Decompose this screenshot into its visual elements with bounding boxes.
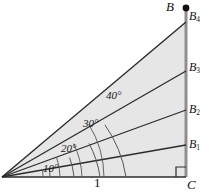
geometry-figure: B B4 B3 B2 B1 C 1 10° 20° 30° 40° [0, 0, 209, 193]
label-base-unit-length: 1 [94, 176, 101, 189]
label-point-B1: B1 [189, 138, 200, 151]
label-angle-40: 40° [106, 90, 121, 101]
label-point-B2-subscript: 2 [196, 108, 200, 117]
label-point-B4-subscript: 4 [196, 15, 200, 24]
label-point-B: B [166, 0, 174, 13]
label-point-B1-subscript: 1 [196, 143, 200, 152]
label-angle-10: 10° [43, 163, 58, 174]
label-point-B2: B2 [189, 103, 200, 116]
geometry-canvas [0, 0, 209, 193]
label-point-B3: B3 [189, 61, 200, 74]
label-point-B3-subscript: 3 [196, 66, 200, 75]
label-angle-20: 20° [61, 143, 76, 154]
label-point-C: C [187, 178, 196, 191]
label-point-B4: B4 [189, 10, 200, 23]
label-angle-30: 30° [83, 118, 98, 129]
